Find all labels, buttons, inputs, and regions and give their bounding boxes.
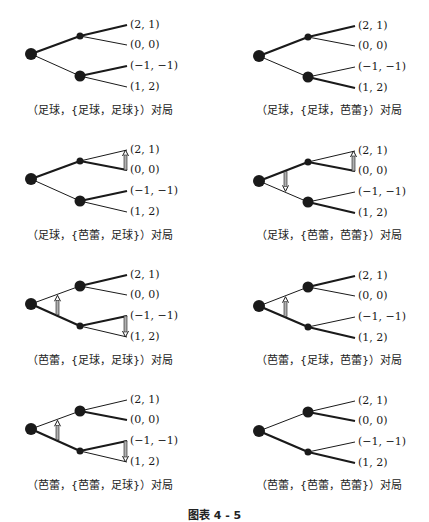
payoff-label: (−1, −1) xyxy=(130,185,178,197)
payoff-label: (1, 2) xyxy=(358,457,388,469)
payoff-label: (0, 0) xyxy=(358,415,388,427)
game-tree-panel: (2, 1)(0, 0)(−1, −1)(1, 2)（芭蕾，{足球，足球}）对局 xyxy=(0,250,214,375)
panel-caption: （芭蕾，{足球，芭蕾}）对局 xyxy=(256,354,402,367)
root-node xyxy=(25,298,37,310)
figure-title: 图表 4 - 5 xyxy=(0,506,429,522)
payoff-label: (0, 0) xyxy=(130,289,160,301)
lower-decision-node xyxy=(75,71,86,82)
lower-decision-node xyxy=(75,196,86,207)
payoff-label: (−1, −1) xyxy=(358,186,406,198)
panel-caption: （芭蕾，{芭蕾，芭蕾}）对局 xyxy=(256,479,402,492)
lower-decision-node xyxy=(77,323,84,330)
lower-decision-node xyxy=(305,449,312,456)
payoff-label: (−1, −1) xyxy=(358,61,406,73)
payoff-label: (2, 1) xyxy=(130,144,160,156)
payoff-label: (2, 1) xyxy=(358,395,388,407)
payoff-label: (−1, −1) xyxy=(130,435,178,447)
root-node xyxy=(253,425,265,437)
payoff-label: (2, 1) xyxy=(358,270,388,282)
payoff-label: (−1, −1) xyxy=(358,311,406,323)
panel-caption: （足球，{足球，足球}）对局 xyxy=(27,104,173,117)
payoff-label: (2, 1) xyxy=(130,394,160,406)
root-node xyxy=(253,175,265,187)
payoff-label: (2, 1) xyxy=(358,145,388,157)
upper-decision-node xyxy=(77,158,84,165)
payoff-label: (1, 2) xyxy=(358,332,388,344)
lower-decision-node xyxy=(305,324,312,331)
root-node xyxy=(253,50,265,62)
root-node xyxy=(25,423,37,435)
upper-decision-node xyxy=(75,406,86,417)
game-tree-panel: (2, 1)(0, 0)(−1, −1)(1, 2)（芭蕾，{芭蕾，足球}）对局 xyxy=(0,375,214,500)
panel-caption: （芭蕾，{足球，足球}）对局 xyxy=(27,354,173,367)
root-node xyxy=(25,48,37,60)
upper-decision-node xyxy=(75,281,86,292)
upper-decision-node xyxy=(305,159,312,166)
payoff-label: (1, 2) xyxy=(130,206,160,218)
payoff-label: (−1, −1) xyxy=(358,436,406,448)
payoff-label: (1, 2) xyxy=(130,331,160,343)
root-node xyxy=(25,173,37,185)
lower-decision-node xyxy=(77,448,84,455)
payoff-label: (1, 2) xyxy=(130,81,160,93)
lower-decision-node xyxy=(303,72,314,83)
game-tree-panel: (2, 1)(0, 0)(−1, −1)(1, 2)（足球，{足球，足球}）对局 xyxy=(0,0,214,125)
game-tree-panel: (2, 1)(0, 0)(−1, −1)(1, 2)（足球，{芭蕾，足球}）对局 xyxy=(0,125,214,250)
payoff-label: (0, 0) xyxy=(130,39,160,51)
upper-decision-node xyxy=(303,282,314,293)
payoff-label: (0, 0) xyxy=(358,40,388,52)
game-tree-panel: (2, 1)(0, 0)(−1, −1)(1, 2)（芭蕾，{芭蕾，芭蕾}）对局 xyxy=(214,375,428,500)
payoff-label: (0, 0) xyxy=(130,414,160,426)
payoff-label: (2, 1) xyxy=(130,269,160,281)
game-tree-panel: (2, 1)(0, 0)(−1, −1)(1, 2)（芭蕾，{足球，芭蕾}）对局 xyxy=(214,250,428,375)
panel-caption: （芭蕾，{芭蕾，足球}）对局 xyxy=(27,479,173,492)
panel-caption: （足球，{芭蕾，芭蕾}）对局 xyxy=(256,229,402,242)
root-node xyxy=(253,300,265,312)
payoff-label: (−1, −1) xyxy=(130,60,178,72)
payoff-label: (0, 0) xyxy=(358,165,388,177)
upper-decision-node xyxy=(77,33,84,40)
panel-caption: （足球，{芭蕾，足球}）对局 xyxy=(27,229,173,242)
payoff-label: (1, 2) xyxy=(358,207,388,219)
game-tree-panel: (2, 1)(0, 0)(−1, −1)(1, 2)（足球，{足球，芭蕾}）对局 xyxy=(214,0,428,125)
payoff-label: (2, 1) xyxy=(358,20,388,32)
upper-decision-node xyxy=(305,34,312,41)
payoff-label: (0, 0) xyxy=(358,290,388,302)
payoff-label: (2, 1) xyxy=(130,19,160,31)
upper-decision-node xyxy=(303,407,314,418)
payoff-label: (0, 0) xyxy=(130,164,160,176)
lower-decision-node xyxy=(303,197,314,208)
payoff-label: (1, 2) xyxy=(130,456,160,468)
game-tree-panel: (2, 1)(0, 0)(−1, −1)(1, 2)（足球，{芭蕾，芭蕾}）对局 xyxy=(214,125,428,250)
payoff-label: (−1, −1) xyxy=(130,310,178,322)
panel-caption: （足球，{足球，芭蕾}）对局 xyxy=(256,104,402,117)
payoff-label: (1, 2) xyxy=(358,82,388,94)
